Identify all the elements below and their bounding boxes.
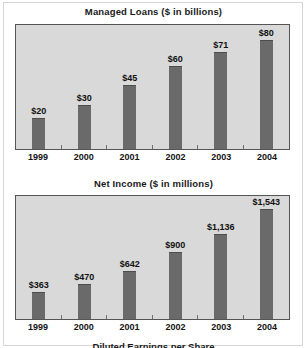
bar-rect[interactable] [214, 52, 227, 149]
bar-value-label: $900 [165, 240, 185, 251]
bar-rect[interactable] [123, 85, 136, 149]
bar-value-label: $642 [120, 259, 140, 270]
axis-label-2002: 2002 [152, 151, 198, 164]
axis-label-2001: 2001 [107, 321, 153, 334]
chart-2-axis-labels: 1999 2000 2001 2002 2003 2004 [15, 321, 290, 334]
chart-3-title-partial: Diluted Earnings per Share [0, 341, 307, 348]
bar-rect[interactable] [32, 292, 45, 319]
bar-group-2000: $470 [62, 196, 108, 319]
bar-rect[interactable] [260, 209, 273, 319]
bar-value-label: $1,543 [252, 197, 280, 208]
bar-value-label: $71 [213, 40, 228, 51]
bar-group-2001: $45 [107, 25, 153, 149]
bar-value-label: $80 [259, 28, 274, 39]
axis-label-2004: 2004 [244, 321, 290, 334]
bar-group-2002: $900 [153, 196, 199, 319]
chart-1-axis-labels: 1999 2000 2001 2002 2003 2004 [15, 151, 290, 164]
bar-group-2003: $71 [198, 25, 244, 149]
axis-label-2000: 2000 [61, 151, 107, 164]
chart-1-title: Managed Loans ($ in billions) [0, 6, 307, 18]
axis-label-2003: 2003 [198, 321, 244, 334]
bar-rect[interactable] [123, 271, 136, 319]
bar-rect[interactable] [260, 40, 273, 149]
bar-rect[interactable] [78, 284, 91, 319]
bar-rect[interactable] [78, 105, 91, 149]
bar-value-label: $20 [31, 106, 46, 117]
axis-label-2003: 2003 [198, 151, 244, 164]
bar-group-2004: $1,543 [244, 196, 290, 319]
chart-2-bars: $363 $470 $642 $900 $1,136 $1,543 [16, 196, 289, 319]
bar-group-1999: $20 [16, 25, 62, 149]
bar-group-2004: $80 [244, 25, 290, 149]
bar-group-2003: $1,136 [198, 196, 244, 319]
bar-rect[interactable] [169, 252, 182, 319]
axis-label-2001: 2001 [107, 151, 153, 164]
bar-rect[interactable] [169, 66, 182, 149]
bar-rect[interactable] [214, 234, 227, 319]
axis-label-2002: 2002 [152, 321, 198, 334]
bar-group-2002: $60 [153, 25, 199, 149]
bar-value-label: $363 [29, 280, 49, 291]
bar-group-1999: $363 [16, 196, 62, 319]
chart-2-plot-area: $363 $470 $642 $900 $1,136 $1,543 [15, 195, 290, 320]
financial-highlights-page: Managed Loans ($ in billions) $20 $30 $4… [0, 0, 307, 348]
bar-value-label: $30 [77, 93, 92, 104]
bar-value-label: $1,136 [207, 222, 235, 233]
axis-label-1999: 1999 [15, 151, 61, 164]
bar-value-label: $45 [122, 73, 137, 84]
bar-group-2001: $642 [107, 196, 153, 319]
bar-value-label: $60 [168, 54, 183, 65]
bar-value-label: $470 [74, 272, 94, 283]
bar-rect[interactable] [32, 118, 45, 149]
chart-1-plot-area: $20 $30 $45 $60 $71 $80 [15, 24, 290, 150]
axis-label-2000: 2000 [61, 321, 107, 334]
chart-managed-loans: Managed Loans ($ in billions) [0, 6, 307, 18]
chart-2-title: Net Income ($ in millions) [0, 178, 307, 190]
axis-label-2004: 2004 [244, 151, 290, 164]
chart-1-bars: $20 $30 $45 $60 $71 $80 [16, 25, 289, 149]
bar-group-2000: $30 [62, 25, 108, 149]
chart-net-income: Net Income ($ in millions) [0, 178, 307, 190]
axis-label-1999: 1999 [15, 321, 61, 334]
